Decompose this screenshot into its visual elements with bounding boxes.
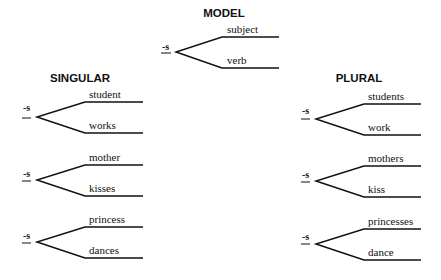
singular-item: -s mother kisses (22, 151, 143, 196)
suffix-label: -s (23, 168, 30, 179)
upper-word: mother (89, 151, 120, 163)
singular-item: -s student works (22, 88, 143, 133)
plural-item: -s mothers kiss (301, 152, 421, 197)
suffix-label: -s (23, 102, 30, 113)
plural-item: -s students work (301, 90, 421, 135)
plural-group: PLURAL -s students work -s mothers kiss … (301, 72, 421, 260)
suffix-label: -s (162, 41, 169, 52)
lower-word: kiss (368, 183, 385, 195)
plural-item: -s princesses dance (301, 215, 421, 260)
upper-word: princess (89, 213, 125, 225)
agreement-diagram: MODEL -s subject verb SINGULAR -s studen… (0, 0, 441, 280)
lower-word: works (89, 119, 116, 131)
singular-item: -s princess dances (22, 213, 143, 258)
suffix-label: -s (302, 105, 309, 116)
lower-word: kisses (89, 182, 115, 194)
upper-word: subject (227, 23, 258, 35)
suffix-label: -s (23, 230, 30, 241)
suffix-label: -s (302, 231, 309, 242)
singular-heading: SINGULAR (50, 72, 111, 84)
model-heading: MODEL (203, 7, 245, 19)
upper-word: princesses (368, 215, 413, 227)
lower-word: dances (89, 244, 119, 256)
lower-word: dance (368, 246, 394, 258)
lower-word: verb (227, 54, 247, 66)
model-group: MODEL -s subject verb (161, 7, 279, 68)
upper-word: student (89, 88, 121, 100)
upper-word: students (368, 90, 404, 102)
lower-word: work (368, 121, 391, 133)
singular-group: SINGULAR -s student works -s mother kiss… (22, 72, 143, 258)
plural-heading: PLURAL (336, 72, 383, 84)
upper-word: mothers (368, 152, 403, 164)
suffix-label: -s (302, 169, 309, 180)
